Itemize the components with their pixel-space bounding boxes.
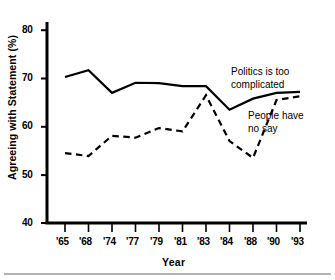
y-tick-label-80: 80 <box>22 24 33 35</box>
y-tick-label-50: 50 <box>22 169 33 180</box>
x-axis-ticks <box>65 224 300 232</box>
x-tick-label-90: '90 <box>267 236 280 247</box>
x-tick-label-84: '84 <box>220 236 233 247</box>
annotation-people: People have no say <box>248 110 304 135</box>
x-tick-label-65: '65 <box>56 236 69 247</box>
y-axis-title: Agreeing with Statement (%) <box>6 35 18 180</box>
x-tick-label-74: '74 <box>103 236 116 247</box>
annotation-politics-line1: Politics is too <box>231 66 289 79</box>
x-axis-title: Year <box>162 256 185 268</box>
annotation-people-line1: People have <box>248 110 304 123</box>
y-tick-label-40: 40 <box>22 217 33 228</box>
x-tick-label-77: '77 <box>126 236 139 247</box>
x-tick-label-68: '68 <box>79 236 92 247</box>
annotation-politics: Politics is too complicated <box>231 66 289 91</box>
chart-figure: Agreeing with Statement (%) 80 70 60 50 … <box>0 0 335 280</box>
x-tick-label-81: '81 <box>174 236 187 247</box>
x-tick-label-83: '83 <box>197 236 210 247</box>
annotation-politics-line2: complicated <box>231 79 289 92</box>
y-tick-label-70: 70 <box>22 72 33 83</box>
x-tick-label-88: '88 <box>244 236 257 247</box>
y-tick-label-60: 60 <box>22 120 33 131</box>
chart-canvas: Agreeing with Statement (%) <box>0 0 335 280</box>
x-tick-label-93: '93 <box>291 236 304 247</box>
x-tick-label-79: '79 <box>150 236 163 247</box>
annotation-people-line2: no say <box>248 123 304 136</box>
